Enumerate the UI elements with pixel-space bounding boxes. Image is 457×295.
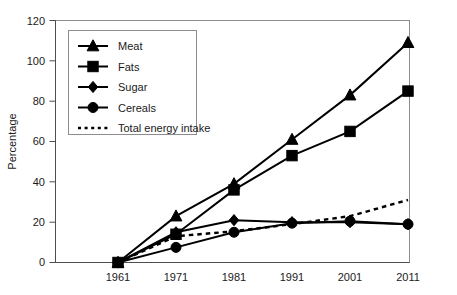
chart-legend: MeatFatsSugarCerealsTotal energy intake [69,31,211,135]
x-tick-label-1981: 1981 [222,271,246,283]
data-point-square [229,185,239,195]
x-tick-label-2001: 2001 [338,271,362,283]
y-axis-title: Percentage [6,113,18,169]
series-total-energy-intake [118,200,408,263]
y-tick-label-0: 0 [39,256,45,268]
y-tick-label-80: 80 [33,95,45,107]
data-point-triangle [286,133,298,144]
legend-item-label: Sugar [118,81,148,93]
data-point-diamond [229,215,239,226]
x-tick-label-1971: 1971 [164,271,188,283]
legend-sample-marker [88,61,98,71]
data-point-triangle [402,36,414,47]
data-point-triangle [170,210,182,221]
chart-figure: 0 20 40 60 80 100 120 Percentage 1961 19… [0,0,457,295]
data-point-square [345,126,355,136]
legend-item-label: Total energy intake [118,122,210,134]
y-tick-label-40: 40 [33,176,45,188]
data-point-circle [403,219,413,229]
series-line [118,200,408,263]
y-tick-label-100: 100 [27,55,45,67]
x-tick-label-1961: 1961 [106,271,130,283]
data-point-circle [345,216,355,226]
data-point-circle [171,242,181,252]
y-axis-ticks [50,21,56,263]
y-tick-label-20: 20 [33,216,45,228]
y-tick-label-60: 60 [33,135,45,147]
line-chart-canvas: 0 20 40 60 80 100 120 Percentage 1961 19… [0,0,457,295]
data-point-square [403,86,413,96]
legend-item-label: Cereals [118,102,156,114]
legend-sample-marker [88,103,98,113]
x-tick-label-1991: 1991 [280,271,304,283]
legend-item-label: Meat [118,40,142,52]
legend-item-label: Fats [118,61,140,73]
y-axis-tick-labels: 0 20 40 60 80 100 120 [27,15,45,269]
y-tick-label-120: 120 [27,15,45,27]
legend-item-cereals[interactable]: Cereals [78,102,156,114]
x-tick-label-2011: 2011 [396,271,420,283]
x-axis-tick-labels: 1961 1971 1981 1991 2001 2011 [106,271,420,283]
data-point-square [287,150,297,160]
